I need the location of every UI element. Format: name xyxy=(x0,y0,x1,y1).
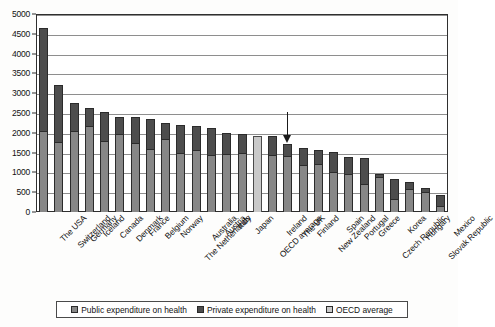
bar-segment-private xyxy=(329,152,338,171)
bar-norway[interactable] xyxy=(161,123,170,212)
y-axis-tick-label: 3500 xyxy=(12,68,30,78)
bar-mexico[interactable] xyxy=(436,195,445,212)
bar-segment-private xyxy=(268,136,277,155)
bars-layer xyxy=(36,14,448,212)
bar-segment-private xyxy=(344,157,353,174)
bar-italy[interactable] xyxy=(222,133,231,212)
y-axis-tick-label: 3000 xyxy=(12,88,30,98)
bar-germany[interactable] xyxy=(70,103,79,212)
bar-segment-private xyxy=(314,150,323,164)
y-axis-tick-label: 500 xyxy=(16,187,30,197)
bar-segment-private xyxy=(222,133,231,154)
bar-segment-public xyxy=(192,150,201,212)
bar-segment-public xyxy=(268,155,277,212)
bar-segment-public xyxy=(329,172,338,212)
bar-segment-private xyxy=(85,108,94,125)
bar-segment-public xyxy=(115,134,124,212)
bar-finland[interactable] xyxy=(299,148,308,212)
annotation-arrow-icon xyxy=(283,112,292,143)
bar-segment-public xyxy=(100,141,109,212)
bar-segment-private xyxy=(192,126,201,150)
bar-segment-oecd-average xyxy=(253,136,262,212)
bar-hungary[interactable] xyxy=(405,182,414,212)
bar-segment-private xyxy=(360,158,369,184)
bar-segment-public xyxy=(39,131,48,212)
bar-portugal[interactable] xyxy=(344,157,353,212)
bar-spain[interactable] xyxy=(329,152,338,212)
bar-oecd-average[interactable] xyxy=(253,136,262,212)
bar-ireland[interactable] xyxy=(268,136,277,212)
bar-segment-public xyxy=(85,126,94,212)
bar-segment-public xyxy=(375,177,384,212)
legend-label: Public expenditure on health xyxy=(81,305,187,315)
bar-segment-public xyxy=(421,192,430,212)
bar-segment-private xyxy=(39,28,48,131)
bar-greece[interactable] xyxy=(360,158,369,212)
x-axis-label-japan: Japan xyxy=(253,213,276,236)
bar-segment-private xyxy=(70,103,79,131)
bar-czech-republic[interactable] xyxy=(375,174,384,212)
bar-switzerland[interactable] xyxy=(54,85,63,212)
y-axis-tick-label: 0 xyxy=(25,207,30,217)
bar-segment-private xyxy=(115,117,124,135)
bar-segment-public xyxy=(238,153,247,212)
y-axis-tick-label: 1000 xyxy=(12,167,30,177)
legend-item: Public expenditure on health xyxy=(71,305,187,315)
bar-segment-private xyxy=(131,117,140,144)
bar-slovak-republic[interactable] xyxy=(421,188,430,212)
bar-segment-private xyxy=(146,119,155,149)
bar-the-usa[interactable] xyxy=(39,28,48,212)
legend-swatch-icon xyxy=(326,306,333,313)
bar-segment-public xyxy=(207,155,216,212)
bar-segment-public xyxy=(436,206,445,212)
y-axis-tick-label: 4000 xyxy=(12,49,30,59)
bar-segment-private xyxy=(390,179,399,198)
bar-segment-public xyxy=(176,153,185,212)
bar-segment-public xyxy=(283,156,292,212)
legend-label: OECD average xyxy=(336,305,393,315)
chart-legend: Public expenditure on healthPrivate expe… xyxy=(56,301,408,318)
bar-segment-public xyxy=(299,165,308,212)
bar-belgium[interactable] xyxy=(146,119,155,212)
bar-segment-private xyxy=(100,112,109,141)
bar-canada[interactable] xyxy=(100,112,109,212)
bar-the-uk[interactable] xyxy=(283,144,292,213)
bar-segment-public xyxy=(161,139,170,212)
bar-segment-private xyxy=(54,85,63,142)
legend-label: Private expenditure on health xyxy=(207,305,316,315)
bar-segment-private xyxy=(161,123,170,139)
legend-item: OECD average xyxy=(326,305,393,315)
bar-france[interactable] xyxy=(131,117,140,212)
arrow-head xyxy=(283,135,291,143)
y-axis-tick-label: 2000 xyxy=(12,128,30,138)
bar-segment-private xyxy=(238,134,247,153)
bar-segment-public xyxy=(344,174,353,212)
bar-japan[interactable] xyxy=(238,134,247,212)
y-axis-tick-label: 1500 xyxy=(12,148,30,158)
bar-iceland[interactable] xyxy=(85,108,94,212)
bar-australia[interactable] xyxy=(192,126,201,212)
bar-austria[interactable] xyxy=(207,128,216,212)
arrow-shaft xyxy=(287,112,288,136)
bar-denmark[interactable] xyxy=(115,117,124,212)
y-axis: 0500100015002000250030003500400045005000 xyxy=(0,0,36,220)
bar-new-zealand[interactable] xyxy=(314,150,323,212)
bar-segment-public xyxy=(146,149,155,212)
bar-korea[interactable] xyxy=(390,179,399,212)
x-axis-labels: The USASwitzerlandGermanyIcelandCanadaDe… xyxy=(36,213,448,293)
bar-the-netherlands[interactable] xyxy=(176,125,185,213)
bar-segment-private xyxy=(207,128,216,155)
y-axis-tick-label: 2500 xyxy=(12,108,30,118)
bar-segment-private xyxy=(176,125,185,154)
bar-segment-public xyxy=(390,199,399,212)
bar-segment-public xyxy=(131,143,140,212)
bar-segment-public xyxy=(222,154,231,212)
bar-segment-public xyxy=(70,131,79,212)
bar-segment-public xyxy=(360,184,369,212)
bar-segment-private xyxy=(283,144,292,157)
legend-swatch-icon xyxy=(197,306,204,313)
bar-segment-private xyxy=(436,195,445,206)
bar-segment-private xyxy=(299,148,308,165)
bar-segment-public xyxy=(314,164,323,212)
